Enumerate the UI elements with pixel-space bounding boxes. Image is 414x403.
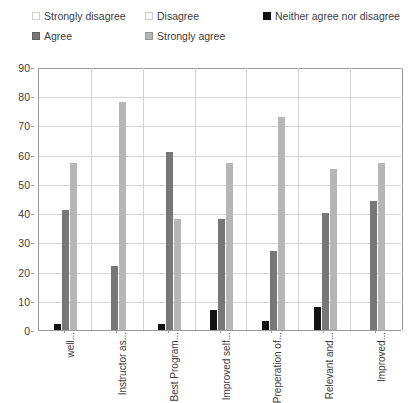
y-tick-label-0: 0 <box>24 325 30 337</box>
y-tick-mark-10 <box>31 302 34 303</box>
x-tick-label: well... <box>64 332 78 358</box>
legend-item-disagree: Disagree <box>145 11 263 22</box>
legend-swatch-disagree <box>145 12 153 20</box>
bar <box>54 324 61 330</box>
x-tick-label: Improved... <box>375 332 389 382</box>
bar <box>314 307 321 330</box>
legend-label-neither: Neither agree nor disagree <box>275 11 400 22</box>
y-tick-label-30: 30 <box>18 237 30 249</box>
x-tick-label: Best Program... <box>168 332 182 401</box>
bar <box>370 201 377 330</box>
bar-group <box>91 68 143 330</box>
y-tick-mark-30 <box>31 243 34 244</box>
bar <box>119 102 126 330</box>
bar <box>270 251 277 330</box>
legend-row-1: Strongly disagree Disagree Neither agree… <box>32 6 414 26</box>
bar <box>166 152 173 330</box>
bar-group <box>350 68 402 330</box>
y-tick-label-10: 10 <box>18 296 30 308</box>
y-tick-mark-90 <box>31 68 34 69</box>
category-separator-7 <box>402 68 403 330</box>
legend-label-strongly-disagree: Strongly disagree <box>44 11 126 22</box>
y-tick-mark-60 <box>31 156 34 157</box>
legend-swatch-strongly-agree <box>145 32 153 40</box>
legend-row-2: Agree Strongly agree <box>32 26 414 46</box>
legend-item-strongly-disagree: Strongly disagree <box>32 11 145 22</box>
x-axis-labels: well...Instructor as...Best Program...Im… <box>38 332 401 401</box>
legend-item-agree: Agree <box>32 31 145 42</box>
bar <box>158 324 165 330</box>
bar-group <box>246 68 298 330</box>
x-tick-label: Improved self... <box>220 332 234 400</box>
y-tick-mark-40 <box>31 214 34 215</box>
y-tick-label-70: 70 <box>18 120 30 132</box>
x-tick-4: Improved self... <box>213 332 227 401</box>
y-axis: 0102030405060708090 <box>0 68 34 331</box>
bar-group <box>143 68 195 330</box>
x-tick-7: Improved... <box>368 332 382 401</box>
bar <box>218 219 225 330</box>
y-tick-label-80: 80 <box>18 91 30 103</box>
y-tick-label-20: 20 <box>18 267 30 279</box>
x-tick-3: Best Program... <box>161 332 175 401</box>
bar <box>330 169 337 330</box>
legend-swatch-agree <box>32 32 40 40</box>
legend-label-strongly-agree: Strongly agree <box>157 31 225 42</box>
bar <box>226 163 233 330</box>
bar <box>174 219 181 330</box>
x-tick-label: Relevant and... <box>323 332 337 399</box>
y-tick-label-40: 40 <box>18 208 30 220</box>
y-tick-mark-20 <box>31 273 34 274</box>
bar-group <box>298 68 350 330</box>
legend-swatch-neither <box>263 12 271 20</box>
bar <box>262 321 269 330</box>
y-tick-mark-50 <box>31 185 34 186</box>
y-tick-mark-80 <box>31 97 34 98</box>
bar <box>322 213 329 330</box>
x-tick-5: Preperation of... <box>264 332 278 401</box>
y-tick-mark-70 <box>31 126 34 127</box>
legend-label-disagree: Disagree <box>157 11 199 22</box>
plot-area <box>38 68 401 331</box>
bar <box>378 163 385 330</box>
legend-item-strongly-agree: Strongly agree <box>145 31 225 42</box>
y-tick-mark-0 <box>31 331 34 332</box>
legend-label-agree: Agree <box>44 31 72 42</box>
x-tick-6: Relevant and... <box>316 332 330 401</box>
x-tick-label: Instructor as... <box>116 332 130 395</box>
bar-group <box>39 68 91 330</box>
y-tick-label-90: 90 <box>18 62 30 74</box>
bar <box>62 210 69 330</box>
chart-legend: Strongly disagree Disagree Neither agree… <box>0 6 414 46</box>
y-tick-label-60: 60 <box>18 150 30 162</box>
x-tick-2: Instructor as... <box>109 332 123 401</box>
x-tick-label: Preperation of... <box>271 332 285 403</box>
bar <box>210 310 217 330</box>
bar <box>111 266 118 330</box>
legend-swatch-strongly-disagree <box>32 12 40 20</box>
bar-group <box>195 68 247 330</box>
bar <box>70 163 77 330</box>
legend-item-neither: Neither agree nor disagree <box>263 11 400 22</box>
y-tick-label-50: 50 <box>18 179 30 191</box>
x-tick-1: well... <box>57 332 71 401</box>
bar <box>278 117 285 330</box>
